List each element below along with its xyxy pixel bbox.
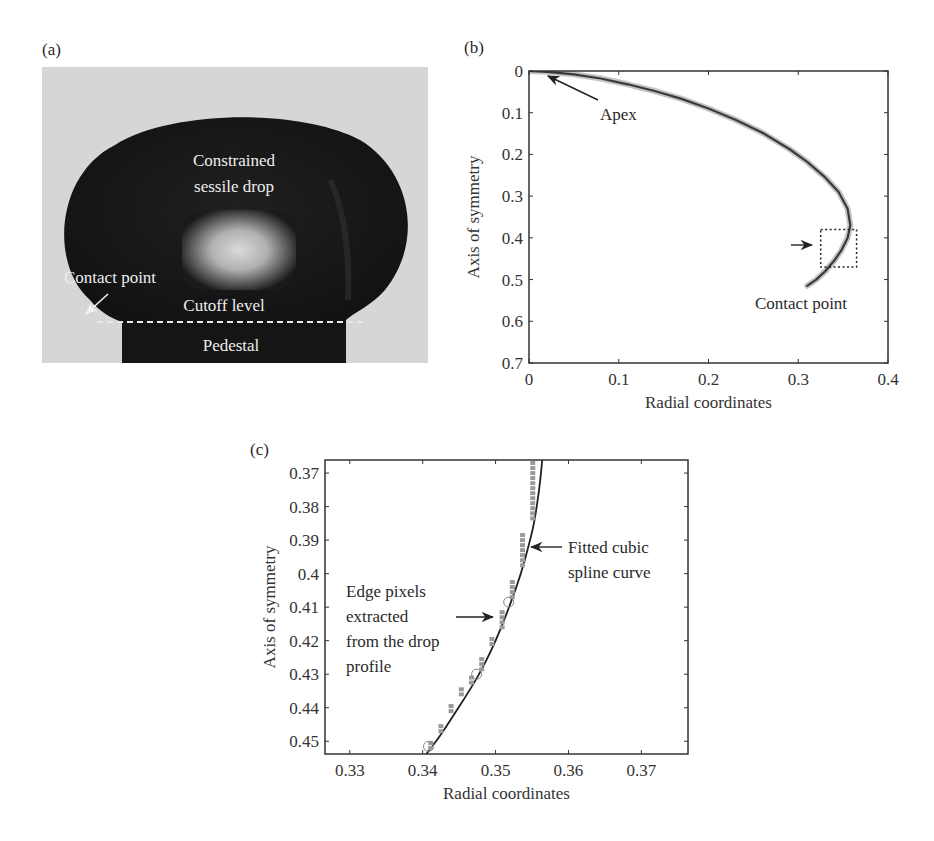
- edge-pixel-marker: [530, 461, 535, 465]
- edge-pixel-marker: [520, 563, 525, 567]
- edge-pixel-marker: [500, 610, 505, 614]
- edge-pixel-marker: [479, 662, 484, 666]
- edge-pixel-marker: [530, 481, 535, 485]
- drop-label-line1: Constrained: [193, 151, 276, 170]
- y-tick-label: 0: [515, 62, 524, 81]
- edge-pixel-marker: [459, 692, 464, 696]
- edge-pixel-marker: [520, 548, 525, 552]
- edge-pixel-marker: [449, 709, 454, 713]
- edge-pixel-marker: [510, 585, 515, 589]
- y-tick-label: 0.38: [289, 498, 319, 517]
- panel-a: (a) Constrained sessile drop Contact poi…: [42, 40, 428, 363]
- drop-photograph: Constrained sessile drop Contact point C…: [42, 67, 428, 363]
- x-tick-label: 0.33: [335, 761, 365, 780]
- y-axis-title: Axis of symmetry: [464, 155, 483, 278]
- edge-pixel-marker: [510, 580, 515, 584]
- contact-point-label-b: Contact point: [755, 294, 847, 313]
- backlight-reflection: [182, 210, 296, 290]
- x-tick-label: 0.37: [626, 761, 656, 780]
- panel-c: (c) 0.330.340.350.360.370.370.380.390.40…: [250, 440, 688, 803]
- panel-a-label: (a): [42, 40, 61, 59]
- edge-pixel-marker: [520, 533, 525, 537]
- x-tick-label: 0.4: [877, 370, 899, 389]
- figure-canvas: (a) Constrained sessile drop Contact poi…: [0, 0, 934, 841]
- edge-pixel-marker: [530, 486, 535, 490]
- apex-label: Apex: [600, 105, 637, 124]
- y-tick-label: 0.44: [289, 699, 319, 718]
- x-tick-label: 0.34: [408, 761, 438, 780]
- edge-pixel-marker: [530, 476, 535, 480]
- edge-label-line2: extracted: [346, 607, 409, 626]
- edge-pixel-marker: [449, 704, 454, 708]
- x-axis-title: Radial coordinates: [645, 393, 772, 412]
- edge-pixel-marker: [520, 543, 525, 547]
- contact-point-label: Contact point: [64, 268, 156, 287]
- edge-pixel-marker: [530, 466, 535, 470]
- x-tick-label: 0.36: [554, 761, 584, 780]
- edge-pixel-markers: [428, 461, 535, 750]
- edge-label-line3: from the drop: [346, 632, 439, 651]
- spline-label-line2: spline curve: [568, 563, 651, 582]
- edge-pixel-marker: [530, 496, 535, 500]
- y-tick-label: 0.37: [289, 464, 319, 483]
- edge-pixel-marker: [479, 657, 484, 661]
- edge-pixel-marker: [520, 538, 525, 542]
- chart-b: 00.10.20.30.400.10.20.30.40.50.60.7Radia…: [464, 62, 899, 412]
- cutoff-level-label: Cutoff level: [183, 296, 265, 315]
- y-tick-label: 0.41: [289, 598, 319, 617]
- edge-pixel-marker: [438, 729, 443, 733]
- edge-label-line4: profile: [346, 657, 391, 676]
- y-tick-label: 0.6: [502, 312, 523, 331]
- y-tick-label: 0.43: [289, 665, 319, 684]
- edge-pixel-marker: [510, 590, 515, 594]
- y-axis-title: Axis of symmetry: [260, 545, 279, 668]
- spline-label-line1: Fitted cubic: [568, 538, 649, 557]
- plot-area: [424, 460, 543, 754]
- edge-pixel-marker: [500, 615, 505, 619]
- edge-pixel-marker: [438, 724, 443, 728]
- y-tick-label: 0.2: [502, 145, 523, 164]
- y-tick-label: 0.4: [298, 565, 320, 584]
- edge-pixel-marker: [489, 637, 494, 641]
- edge-pixel-marker: [530, 471, 535, 475]
- y-tick-label: 0.45: [289, 732, 319, 751]
- edge-pixel-marker: [520, 553, 525, 557]
- panel-c-label: (c): [250, 440, 269, 459]
- edge-pixel-marker: [459, 687, 464, 691]
- edge-pixel-marker: [530, 506, 535, 510]
- y-tick-label: 0.42: [289, 632, 319, 651]
- edge-pixel-marker: [520, 558, 525, 562]
- axes-frame: [529, 71, 888, 363]
- x-tick-label: 0.1: [608, 370, 629, 389]
- edge-pixel-marker: [530, 501, 535, 505]
- edge-label-line1: Edge pixels: [346, 582, 426, 601]
- panel-b: (b) 00.10.20.30.400.10.20.30.40.50.60.7R…: [464, 38, 899, 412]
- y-tick-label: 0.39: [289, 531, 319, 550]
- x-tick-label: 0: [525, 370, 534, 389]
- y-tick-label: 0.4: [502, 229, 524, 248]
- y-tick-label: 0.5: [502, 271, 523, 290]
- edge-pixel-marker: [500, 620, 505, 624]
- edge-pixel-marker: [489, 642, 494, 646]
- edge-pixel-marker: [530, 511, 535, 515]
- x-axis-title: Radial coordinates: [443, 784, 570, 803]
- y-tick-label: 0.7: [502, 354, 524, 373]
- edge-pixel-marker: [530, 491, 535, 495]
- edge-pixel-marker: [469, 681, 474, 685]
- edge-pixel-marker: [500, 625, 505, 629]
- panel-b-label: (b): [464, 38, 484, 57]
- chart-c: 0.330.340.350.360.370.370.380.390.40.410…: [260, 460, 688, 803]
- y-tick-label: 0.3: [502, 187, 523, 206]
- pedestal-label: Pedestal: [203, 336, 260, 355]
- x-tick-label: 0.3: [788, 370, 809, 389]
- plot-area: [529, 71, 850, 286]
- edge-pixel-marker: [530, 516, 535, 520]
- edge-pixel-band: [529, 71, 850, 286]
- x-tick-label: 0.35: [481, 761, 511, 780]
- axis-ticks: 00.10.20.30.400.10.20.30.40.50.60.7: [502, 62, 899, 389]
- y-tick-label: 0.1: [502, 104, 523, 123]
- drop-label-line2: sessile drop: [194, 177, 274, 196]
- fitted-spline-curve: [426, 460, 542, 754]
- x-tick-label: 0.2: [698, 370, 719, 389]
